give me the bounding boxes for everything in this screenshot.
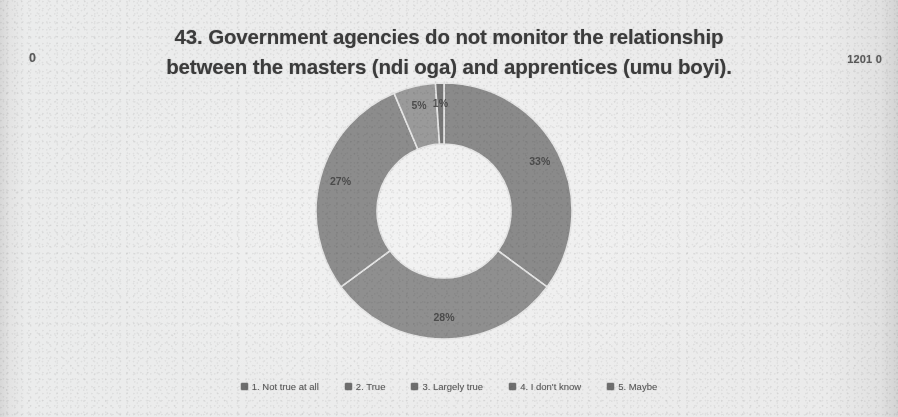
scanned-figure-page: 0 1201 0 43. Government agencies do not … xyxy=(0,0,898,417)
legend-item-label: 1. Not true at all xyxy=(252,381,319,392)
doughnut-slice xyxy=(444,83,572,287)
page-marker-left: 0 xyxy=(29,51,36,65)
legend-item[interactable]: 1. Not true at all xyxy=(241,381,319,392)
page-marker-right: 1201 0 xyxy=(847,53,882,65)
legend-swatch-icon xyxy=(607,383,614,390)
legend-item[interactable]: 4. I don't know xyxy=(509,381,581,392)
legend-swatch-icon xyxy=(241,383,248,390)
legend-item-label: 2. True xyxy=(356,381,386,392)
legend-item[interactable]: 2. True xyxy=(345,381,386,392)
doughnut-slice-label: 1% xyxy=(433,97,449,109)
doughnut-slice-group xyxy=(316,83,572,339)
doughnut-slice-label: 33% xyxy=(529,155,551,167)
doughnut-slice-label: 27% xyxy=(330,175,352,187)
legend-item-label: 4. I don't know xyxy=(520,381,581,392)
chart-title: 43. Government agencies do not monitor t… xyxy=(96,22,802,82)
legend-item-label: 5. Maybe xyxy=(618,381,657,392)
legend-swatch-icon xyxy=(345,383,352,390)
doughnut-chart: 33%28%27%5%1% xyxy=(313,80,575,342)
chart-title-line-1: 43. Government agencies do not monitor t… xyxy=(96,22,802,52)
legend-swatch-icon xyxy=(509,383,516,390)
legend-item[interactable]: 3. Largely true xyxy=(411,381,483,392)
doughnut-slice-label: 28% xyxy=(433,311,455,323)
legend-item[interactable]: 5. Maybe xyxy=(607,381,657,392)
chart-legend: 1. Not true at all2. True3. Largely true… xyxy=(0,381,898,392)
legend-swatch-icon xyxy=(411,383,418,390)
doughnut-chart-svg: 33%28%27%5%1% xyxy=(313,80,575,342)
chart-title-line-2: between the masters (ndi oga) and appren… xyxy=(96,52,802,82)
doughnut-slice-label: 5% xyxy=(412,99,428,111)
legend-item-label: 3. Largely true xyxy=(422,381,483,392)
doughnut-slice xyxy=(316,93,418,287)
